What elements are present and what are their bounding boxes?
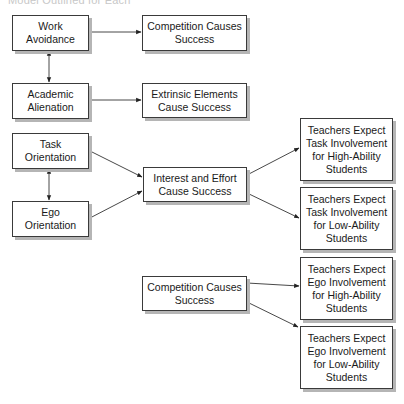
node-teachers-task-high: Teachers Expect Task Involvement for Hig…: [300, 118, 393, 181]
arrow-task-to-interest: [88, 150, 142, 177]
node-label: Competition Causes Success: [147, 20, 242, 46]
node-work-avoidance: Work Avoidance: [12, 15, 89, 51]
arrow-interest-to-task-low: [247, 193, 299, 218]
node-label: Teachers Expect Task Involvement for Hig…: [306, 124, 387, 176]
node-label: Task Orientation: [25, 138, 76, 164]
node-label: Academic Alienation: [27, 88, 73, 114]
arrow-competition-to-ego-high-visible: [247, 283, 299, 286]
node-label: Interest and Effort Cause Success: [153, 172, 236, 198]
node-academic-alienation: Academic Alienation: [12, 83, 89, 119]
node-ego-orientation: Ego Orientation: [12, 201, 89, 237]
node-task-orientation: Task Orientation: [12, 133, 89, 169]
node-label: Teachers Expect Task Involvement for Low…: [306, 193, 387, 245]
node-label: Teachers Expect Ego Involvement for High…: [307, 263, 385, 315]
node-teachers-task-low: Teachers Expect Task Involvement for Low…: [300, 187, 393, 250]
node-interest-and-effort: Interest and Effort Cause Success: [143, 167, 247, 202]
arrow-competition-to-ego-low-path: [247, 302, 298, 327]
node-label: Ego Orientation: [25, 206, 76, 232]
node-label: Competition Causes Success: [147, 281, 242, 307]
node-extrinsic-elements: Extrinsic Elements Cause Success: [142, 83, 247, 118]
node-teachers-ego-low: Teachers Expect Ego Involvement for Low-…: [300, 326, 393, 389]
node-label: Work Avoidance: [26, 20, 75, 46]
node-competition-causes-success-top: Competition Causes Success: [142, 15, 247, 51]
node-label: Extrinsic Elements Cause Success: [151, 88, 237, 114]
node-competition-causes-success-bottom: Competition Causes Success: [142, 276, 247, 311]
arrow-interest-to-task-high: [247, 148, 299, 175]
arrow-ego-to-interest: [88, 191, 142, 219]
node-label: Teachers Expect Ego Involvement for Low-…: [307, 332, 385, 384]
node-teachers-ego-high: Teachers Expect Ego Involvement for High…: [300, 257, 393, 320]
